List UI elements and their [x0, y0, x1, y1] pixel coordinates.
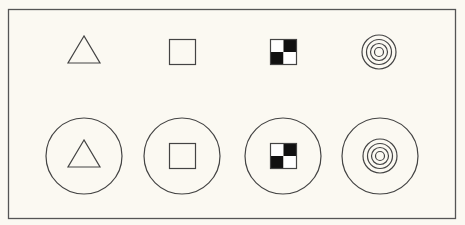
square-in-circle-icon [144, 118, 220, 194]
concentric-circles-icon [362, 35, 396, 69]
triangle-icon [68, 36, 100, 63]
square-icon [170, 40, 196, 65]
checkerboard-icon [271, 40, 297, 65]
figure-canvas [0, 0, 465, 225]
checkerboard-in-circle-icon [245, 118, 321, 194]
triangle-in-circle-icon [46, 118, 122, 194]
bottom-row [46, 118, 418, 194]
frame-border [9, 10, 456, 219]
concentric-circles-in-circle-icon [342, 118, 418, 194]
top-row [68, 35, 396, 69]
